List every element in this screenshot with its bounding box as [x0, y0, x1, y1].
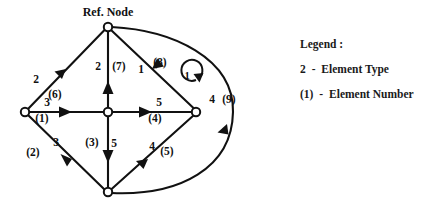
edge-9-number-label: (9): [222, 93, 236, 106]
ref-node-caption: Ref. Node: [83, 5, 134, 19]
edge-8-type-label: 1: [138, 63, 144, 75]
edge-4-number-label: (4): [148, 112, 162, 125]
legend-key-element-number: (1): [300, 88, 313, 100]
edge-2-type-label: 3: [53, 136, 59, 148]
edge-8-number-label: (8): [153, 56, 167, 69]
edge-9: [112, 27, 234, 193]
edge-6-type-label: 2: [33, 73, 39, 85]
edge-5-line: [111, 115, 195, 190]
edge-2-number-label: (2): [26, 146, 40, 159]
node-right[interactable]: [192, 108, 200, 116]
legend-desc-element-type: Element Type: [321, 63, 389, 75]
edge-4-type-label: 5: [156, 96, 162, 108]
edge-7-number-label: (7): [112, 60, 126, 73]
legend-dash-element-number: -: [316, 88, 326, 100]
edge-6-arrowhead: [55, 69, 67, 79]
edge-6-line: [28, 30, 106, 110]
edge-7-type-label: 2: [95, 60, 101, 72]
legend-desc-element-number: Element Number: [329, 88, 414, 100]
edge-9-arrowhead: [218, 124, 229, 135]
node-ref-top[interactable]: [104, 23, 112, 31]
edge-3-number-label: (3): [85, 136, 99, 149]
legend: Legend : 2 - Element Type (1) - Element …: [300, 38, 440, 113]
edge-7-arrowhead: [103, 81, 114, 94]
edge-6-number-label: (6): [48, 88, 62, 101]
edge-3-type-label: 5: [111, 137, 117, 149]
edge-1-arrowhead: [59, 107, 72, 118]
edge-1-number-label: (1): [35, 112, 49, 125]
edge-3: [103, 116, 114, 189]
node-left[interactable]: [21, 108, 29, 116]
diagram-page: 1 Ref. Node 3 (1) 3 (2) 5 (3) 5 (4) 4 (5…: [0, 0, 445, 212]
loop-type-label: 1: [184, 70, 189, 81]
legend-key-element-type: 2: [300, 63, 306, 75]
edge-5: [111, 115, 195, 190]
edge-5-arrowhead: [136, 159, 148, 169]
loop-marker-1: 1: [181, 60, 203, 83]
edge-5-type-label: 4: [149, 140, 155, 152]
edge-9-curve: [112, 27, 234, 193]
edge-9-type-label: 4: [209, 93, 215, 105]
edge-5-number-label: (5): [160, 145, 174, 158]
node-center[interactable]: [104, 108, 112, 116]
legend-title: Legend :: [300, 38, 440, 50]
legend-row-element-number: (1) - Element Number: [300, 88, 440, 100]
legend-dash-element-type: -: [309, 63, 319, 75]
node-bottom[interactable]: [104, 188, 112, 196]
edge-3-arrowhead: [103, 150, 114, 163]
legend-row-element-type: 2 - Element Type: [300, 63, 440, 75]
edge-6: [28, 30, 106, 110]
